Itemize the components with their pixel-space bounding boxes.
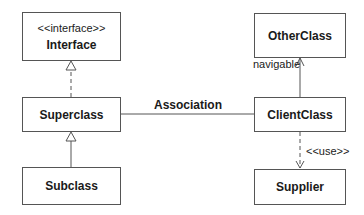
class-interface[interactable]: <<interface>> Interface: [22, 12, 121, 61]
navigable-label: navigable: [253, 58, 300, 70]
class-otherclass[interactable]: OtherClass: [254, 13, 346, 58]
class-subclass[interactable]: Subclass: [22, 167, 121, 205]
association-label: Association: [154, 98, 222, 112]
realization-arrow: [66, 61, 76, 97]
otherclass-name: OtherClass: [268, 29, 332, 43]
interface-stereotype: <<interface>>: [38, 22, 106, 34]
class-supplier[interactable]: Supplier: [254, 169, 346, 205]
class-superclass[interactable]: Superclass: [22, 97, 121, 132]
interface-name: Interface: [46, 38, 96, 52]
generalization-arrow: [66, 132, 76, 167]
use-label: <<use>>: [306, 145, 349, 157]
superclass-name: Superclass: [39, 108, 103, 122]
clientclass-name: ClientClass: [267, 108, 332, 122]
dependency-arrow: [296, 132, 304, 168]
supplier-name: Supplier: [276, 180, 324, 194]
subclass-name: Subclass: [45, 179, 98, 193]
class-clientclass[interactable]: ClientClass: [254, 97, 346, 132]
